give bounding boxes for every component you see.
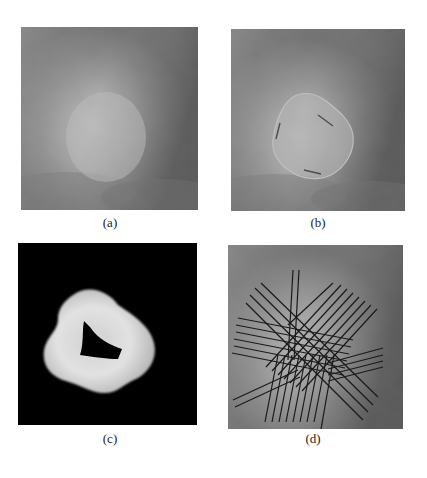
caption-a: (a): [80, 215, 140, 231]
panel-a-mammogram: [21, 27, 198, 210]
panel-d-line-overlay: [228, 245, 403, 429]
mammogram-image-a: [21, 27, 198, 210]
panel-b-contour: [231, 29, 405, 211]
panel-c-ribbon: [18, 243, 197, 425]
ribbon-mask-image: [18, 243, 197, 425]
mammogram-image-d: [228, 245, 403, 429]
mammogram-image-b: [231, 29, 405, 211]
caption-c: (c): [80, 431, 140, 447]
caption-b: (b): [288, 215, 348, 231]
caption-d: (d): [283, 431, 343, 447]
